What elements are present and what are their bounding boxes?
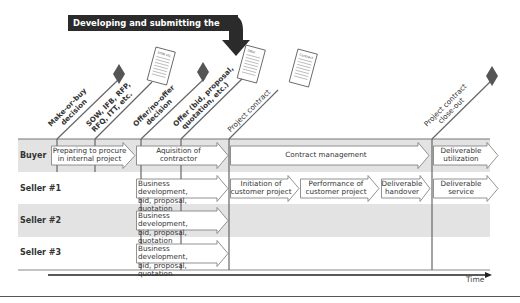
phase-deliverable-handover: Deliverable handover [381, 175, 431, 202]
phase-text: Preparing to procure [51, 142, 136, 155]
phase-text: service [433, 188, 499, 196]
phase-deliverable-utilization: Deliverable utilization [433, 142, 499, 169]
phase-text: customer project [230, 188, 300, 196]
document-icon: SOW etc. [146, 46, 176, 88]
diamond-icon [197, 62, 209, 84]
document-icon: Contract [288, 48, 318, 90]
phase-text: Deliverable [381, 175, 431, 188]
phase-preparing-to-procure: Preparing to procure in internal project [51, 142, 136, 169]
phase-initiation-of-customer-project: Initiation of customer project [230, 175, 300, 202]
phase-contract-management: Contract management [230, 142, 430, 169]
phase-text: bid, proposal, quotation [136, 262, 229, 279]
phase-text: utilization [433, 155, 499, 163]
phase-text: Performance of [300, 175, 380, 188]
phase-text: Initiation of [230, 175, 300, 188]
diamond-icon [486, 66, 498, 88]
phase-text: Contract management [230, 142, 430, 159]
bottom-divider [0, 296, 520, 297]
phase-business-development-seller-1: Business development, bid, proposal, quo… [136, 175, 229, 202]
phase-business-development-seller-2: Business development, bid, proposal, quo… [136, 207, 229, 234]
phase-acquisition-of-contractor: Aquisition of contractor [136, 142, 229, 169]
lane-label-buyer: Buyer [20, 151, 46, 160]
phase-business-development-seller-3: Business development, bid, proposal, quo… [136, 240, 229, 267]
phase-text: customer project [300, 188, 380, 196]
phase-text: handover [381, 188, 431, 196]
document-icon: Offer [236, 44, 266, 86]
phase-text: contractor [136, 155, 229, 163]
lane-label-seller-3: Seller #3 [20, 248, 61, 257]
phase-text: in internal project [51, 155, 136, 163]
phase-text: Deliverable [433, 142, 499, 155]
lane-label-seller-2: Seller #2 [20, 216, 61, 225]
phase-deliverable-service: Deliverable service [433, 175, 499, 202]
phase-text: Aquisition of [136, 142, 229, 155]
phase-text: Business development, [136, 175, 229, 197]
time-axis-label: Time [466, 275, 484, 284]
phase-text: Business development, [136, 240, 229, 262]
phase-text: Deliverable [433, 175, 499, 188]
phase-performance-of-customer-project: Performance of customer project [300, 175, 380, 202]
phase-text: Business development, [136, 207, 229, 229]
lane-label-seller-1: Seller #1 [20, 184, 61, 193]
